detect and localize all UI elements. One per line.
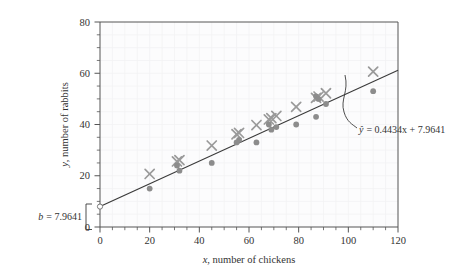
x-tick-label: 60 — [244, 235, 255, 246]
x-axis-title: x, number of chickens — [202, 254, 296, 265]
data-point — [266, 122, 272, 128]
data-point — [236, 137, 242, 143]
data-point — [370, 88, 376, 94]
plot-area — [100, 22, 398, 227]
x-tick-label: 80 — [293, 235, 304, 246]
equation-yhat: ŷ — [358, 124, 364, 135]
y-tick-label: 40 — [80, 119, 91, 130]
data-point — [323, 101, 329, 107]
x-tick-label: 0 — [97, 235, 102, 246]
x-axis-title-rest: , number of chickens — [207, 254, 295, 265]
data-point — [293, 122, 299, 128]
y-tick-label: 80 — [80, 17, 91, 28]
data-point — [316, 96, 322, 102]
data-point — [273, 124, 279, 130]
intercept-open-circle-marker — [97, 204, 102, 209]
intercept-symbol: b — [38, 211, 43, 222]
data-point — [313, 114, 319, 120]
data-point — [177, 168, 183, 174]
regression-scatter-chart: 0 20 40 60 80 100 120 0 20 40 60 80 x, n… — [0, 0, 462, 274]
data-point — [254, 140, 260, 146]
y-tick-label: 20 — [80, 170, 91, 181]
data-point — [174, 163, 180, 169]
x-tick-label: 120 — [390, 235, 406, 246]
x-tick-label: 20 — [144, 235, 155, 246]
regression-equation-label: ŷ= 0.4434x + 7.9641 — [358, 124, 445, 135]
x-tick-label: 100 — [340, 235, 356, 246]
y-tick-label: 0 — [85, 222, 90, 233]
y-axis-title: y, number of rabbits — [59, 82, 70, 168]
y-axis-title-rest: , number of rabbits — [59, 82, 70, 162]
data-point — [268, 127, 274, 133]
y-tick-label: 60 — [80, 68, 91, 79]
equation-rhs: = 0.4434x + 7.9641 — [366, 124, 445, 135]
intercept-value: = 7.9641 — [46, 211, 82, 222]
data-point — [147, 186, 153, 192]
data-point — [209, 160, 215, 166]
x-tick-label: 40 — [194, 235, 205, 246]
